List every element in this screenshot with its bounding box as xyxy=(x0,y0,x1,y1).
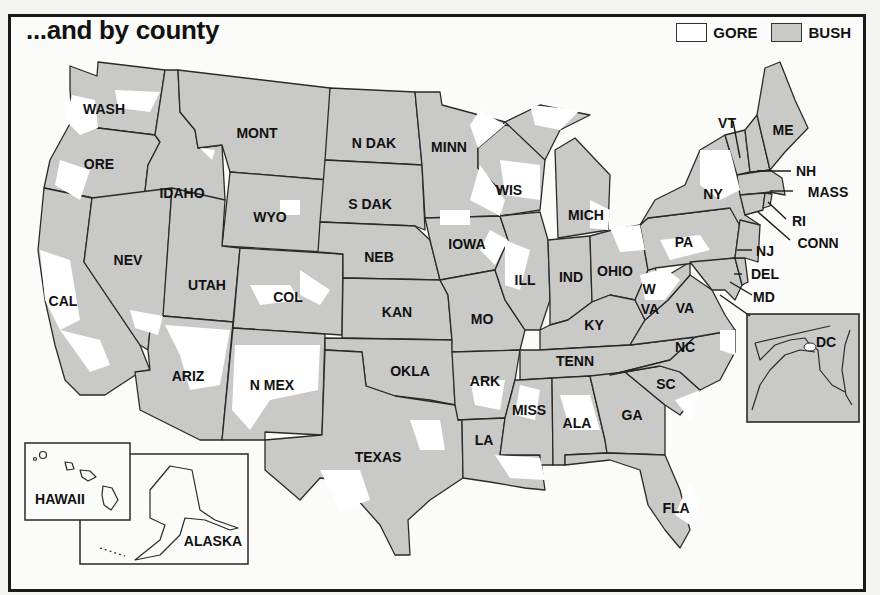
label-va: VA xyxy=(676,300,694,316)
label-conn: CONN xyxy=(797,235,838,251)
label-ark: ARK xyxy=(470,373,500,389)
label-neb: NEB xyxy=(364,249,394,265)
label-ala: ALA xyxy=(563,415,592,431)
label-iowa: IOWA xyxy=(448,236,485,252)
label-pa: PA xyxy=(675,234,693,250)
label-wis: WIS xyxy=(496,182,522,198)
label-md: MD xyxy=(753,289,775,305)
label-del: DEL xyxy=(751,266,779,282)
label-mass: MASS xyxy=(808,184,848,200)
state-ri xyxy=(763,193,772,208)
label-ga: GA xyxy=(622,407,643,423)
label-w: W xyxy=(642,281,656,297)
label-idaho: IDAHO xyxy=(159,185,204,201)
label-tenn: TENN xyxy=(556,353,594,369)
us-county-map: DC ALASKA HAWAII WASH ORE CAL IDAHO NEV … xyxy=(0,0,880,595)
label-mich: MICH xyxy=(568,207,604,223)
label-wash: WASH xyxy=(83,101,125,117)
dc-inset: DC xyxy=(747,314,859,422)
label-texas: TEXAS xyxy=(355,449,402,465)
label-me: ME xyxy=(773,122,794,138)
label-kan: KAN xyxy=(382,304,412,320)
label-nh: NH xyxy=(796,163,816,179)
label-col: COL xyxy=(273,289,303,305)
label-ind: IND xyxy=(559,269,583,285)
label-vt: VT xyxy=(718,115,736,131)
label-ore: ORE xyxy=(84,156,114,172)
label-ny: NY xyxy=(703,186,723,202)
label-mont: MONT xyxy=(236,125,278,141)
label-s-dak: S DAK xyxy=(348,196,392,212)
label-alaska: ALASKA xyxy=(184,533,242,549)
label-nj: NJ xyxy=(756,243,774,259)
label-ohio: OHIO xyxy=(597,263,633,279)
label-miss: MISS xyxy=(512,402,546,418)
label-okla: OKLA xyxy=(390,363,430,379)
label-dc: DC xyxy=(816,334,836,350)
label-ill: ILL xyxy=(515,272,536,288)
label-n-mex: N MEX xyxy=(250,377,295,393)
label-wyo: WYO xyxy=(253,209,287,225)
label-ariz: ARIZ xyxy=(172,368,205,384)
label-sc: SC xyxy=(656,376,675,392)
state-s-dak xyxy=(320,160,425,230)
label-ky: KY xyxy=(584,317,604,333)
state-n-dak xyxy=(325,88,422,165)
label-minn: MINN xyxy=(431,139,467,155)
label-fla: FLA xyxy=(662,500,689,516)
state-conn xyxy=(740,193,765,215)
label-nc: NC xyxy=(675,339,695,355)
label-w-va: VA xyxy=(641,301,659,317)
label-n-dak: N DAK xyxy=(352,135,396,151)
label-utah: UTAH xyxy=(188,277,226,293)
hawaii-inset xyxy=(25,443,130,520)
label-ri: RI xyxy=(792,213,806,229)
label-nev: NEV xyxy=(114,252,143,268)
label-mo: MO xyxy=(471,311,494,327)
label-hawaii: HAWAII xyxy=(35,491,85,507)
label-la: LA xyxy=(475,432,494,448)
label-cal: CAL xyxy=(49,293,78,309)
